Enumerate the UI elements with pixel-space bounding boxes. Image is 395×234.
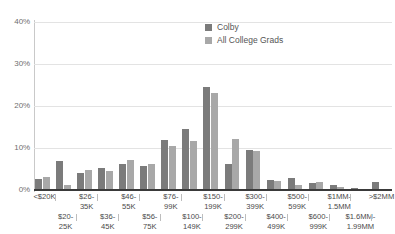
legend-item-all-college-grads[interactable]: All College Grads xyxy=(205,35,325,46)
x-tick-label: $20- 25K xyxy=(46,212,86,231)
bar[interactable] xyxy=(161,140,168,190)
x-axis-labels: <$20K$20- 25K$26- 35K$36- 45K$46- 55K$56… xyxy=(34,192,392,234)
bar[interactable] xyxy=(203,87,210,190)
x-label-separator xyxy=(181,194,182,201)
y-tick-label: 30% xyxy=(14,60,30,68)
x-tick-label: $200- 299K xyxy=(214,212,254,231)
x-label-separator xyxy=(245,214,246,221)
x-label-separator xyxy=(202,214,203,221)
chart-legend: Colby All College Grads xyxy=(205,22,325,48)
y-tick-label: 20% xyxy=(14,102,30,110)
bar-group xyxy=(97,22,118,190)
x-label-separator xyxy=(350,194,351,201)
x-label-separator xyxy=(118,214,119,221)
bar-group xyxy=(371,22,392,190)
legend-label: Colby xyxy=(217,23,239,32)
bar-group xyxy=(160,22,181,190)
x-label-separator xyxy=(160,214,161,221)
y-tick-label: 10% xyxy=(14,144,30,152)
bar[interactable] xyxy=(169,146,176,190)
bar-group xyxy=(139,22,160,190)
x-tick-label: $56- 75K xyxy=(130,212,170,231)
bar[interactable] xyxy=(106,171,113,190)
bar-group xyxy=(55,22,76,190)
bar[interactable] xyxy=(56,161,63,190)
bar[interactable] xyxy=(85,170,92,190)
bar-group xyxy=(181,22,202,190)
bar[interactable] xyxy=(77,173,84,190)
legend-label: All College Grads xyxy=(217,36,283,45)
x-tick-label: $400- 499K xyxy=(256,212,296,231)
bar[interactable] xyxy=(119,164,126,190)
income-distribution-bar-chart: 0%10%20%30%40% Colby All College Grads <… xyxy=(0,0,395,234)
x-label-separator xyxy=(97,194,98,201)
x-label-separator xyxy=(139,194,140,201)
bar[interactable] xyxy=(148,164,155,190)
bar[interactable] xyxy=(190,141,197,190)
x-tick-label: $1MM- 1.5MM xyxy=(319,192,359,211)
x-label-separator xyxy=(308,194,309,201)
bar-group xyxy=(350,22,371,190)
x-tick-label: <$20K xyxy=(25,192,65,202)
x-tick-label: >$2MM xyxy=(361,192,395,202)
bar-group xyxy=(76,22,97,190)
bar[interactable] xyxy=(140,166,147,190)
bar[interactable] xyxy=(246,150,253,190)
bar[interactable] xyxy=(98,168,105,190)
x-tick-label: $46- 55K xyxy=(109,192,149,211)
bar[interactable] xyxy=(127,160,134,190)
x-tick-label: $300- 399K xyxy=(235,192,275,211)
x-axis-line xyxy=(34,189,392,191)
x-label-separator xyxy=(76,214,77,221)
x-label-separator xyxy=(224,194,225,201)
bar[interactable] xyxy=(253,151,260,190)
legend-swatch-icon xyxy=(205,37,212,44)
x-tick-label: $26- 35K xyxy=(67,192,107,211)
x-tick-label: $1.6MM- 1.99MM xyxy=(340,212,380,231)
y-tick-label: 40% xyxy=(14,18,30,26)
x-label-separator xyxy=(266,194,267,201)
bar-group xyxy=(329,22,350,190)
bar[interactable] xyxy=(211,93,218,190)
x-tick-label: $36- 45K xyxy=(88,212,128,231)
x-tick-label: $76- 99K xyxy=(151,192,191,211)
bar-group xyxy=(118,22,139,190)
x-label-separator xyxy=(287,214,288,221)
legend-swatch-icon xyxy=(205,24,212,31)
x-label-separator xyxy=(55,194,56,201)
bar[interactable] xyxy=(182,129,189,190)
x-tick-label: $600- 999K xyxy=(298,212,338,231)
x-tick-label: $100- 149K xyxy=(172,212,212,231)
x-tick-label: $500- 599K xyxy=(277,192,317,211)
bar[interactable] xyxy=(225,164,232,190)
legend-item-colby[interactable]: Colby xyxy=(205,22,325,33)
x-label-separator xyxy=(371,214,372,221)
x-label-separator xyxy=(329,214,330,221)
x-tick-label: $150- 199K xyxy=(193,192,233,211)
bar[interactable] xyxy=(232,139,239,190)
bar-group xyxy=(34,22,55,190)
